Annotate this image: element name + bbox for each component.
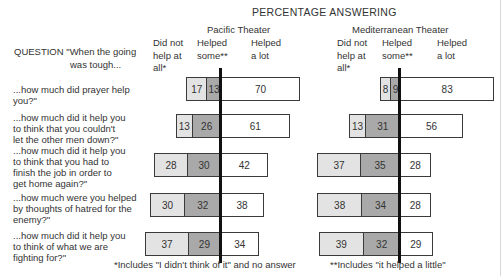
bar-mediterranean-q4: 383428 xyxy=(317,193,431,217)
segment-helped-a-lot: 28 xyxy=(399,194,430,216)
segment-helped-some: 35 xyxy=(360,154,399,176)
segment-did-not-help: 37 xyxy=(318,154,359,176)
segment-helped-some: 26 xyxy=(192,115,221,137)
segment-helped-a-lot: 38 xyxy=(220,194,263,216)
segment-helped-some: 30 xyxy=(187,154,221,176)
segment-helped-some: 31 xyxy=(365,115,400,137)
legend-helped-some-mediterranean: Helpedsome** xyxy=(382,37,413,62)
question-label-2: ...how much did it help youto think that… xyxy=(13,112,143,145)
bar-mediterranean-q3: 373528 xyxy=(317,153,431,177)
bar-pacific-q4: 303238 xyxy=(150,193,264,217)
panel-title-mediterranean: Mediterranean Theater xyxy=(352,24,448,35)
segment-did-not-help: 17 xyxy=(187,78,206,100)
legend-did-not-help-mediterranean: Did nothelp atall* xyxy=(337,37,367,75)
question-header: QUESTION "When the going was tough... xyxy=(14,46,136,71)
segment-did-not-help: 13 xyxy=(177,115,192,137)
legend-helped-a-lot-pacific: Helpeda lot xyxy=(251,37,281,62)
segment-helped-a-lot: 29 xyxy=(399,233,431,255)
segment-did-not-help: 39 xyxy=(320,233,364,255)
segment-did-not-help: 37 xyxy=(146,233,187,255)
legend-helped-some-pacific: Helpedsome** xyxy=(197,37,228,62)
segment-helped-a-lot: 42 xyxy=(220,154,267,176)
footnote-helped-some: **Includes "it helped a little" xyxy=(330,259,446,270)
question-label-3: ...how much did it help youto think that… xyxy=(13,145,143,189)
bar-pacific-q5: 372934 xyxy=(145,232,259,256)
segment-helped-some: 34 xyxy=(361,194,399,216)
page-edge-divider xyxy=(500,0,501,276)
segment-helped-a-lot: 70 xyxy=(221,78,299,100)
chart-title: PERCENTAGE ANSWERING xyxy=(252,6,397,18)
panel-title-pacific: Pacific Theater xyxy=(207,24,270,35)
bar-pacific-q2: 132661 xyxy=(176,114,290,138)
segment-helped-some: 29 xyxy=(188,233,220,255)
bar-pacific-q1: 171370 xyxy=(186,77,300,101)
segment-helped-some: 32 xyxy=(363,233,399,255)
pacific-center-line xyxy=(219,68,222,263)
segment-helped-some: 32 xyxy=(184,194,220,216)
bar-pacific-q3: 283042 xyxy=(154,153,268,177)
question-label-4: ...how much were you helpedby thoughts o… xyxy=(13,192,143,225)
segment-helped-a-lot: 61 xyxy=(221,115,289,137)
question-label-1: ...how much did prayer help you?" xyxy=(13,84,143,106)
segment-did-not-help: 28 xyxy=(155,154,186,176)
bar-mediterranean-q5: 393229 xyxy=(319,232,433,256)
segment-helped-a-lot: 83 xyxy=(400,78,493,100)
segment-helped-a-lot: 28 xyxy=(399,154,430,176)
segment-helped-a-lot: 56 xyxy=(400,115,463,137)
legend-helped-a-lot-mediterranean: Helpeda lot xyxy=(437,37,467,62)
segment-did-not-help: 8 xyxy=(381,78,390,100)
legend-did-not-help-pacific: Did nothelp atall* xyxy=(153,37,183,75)
mediterranean-center-line xyxy=(398,68,401,263)
segment-did-not-help: 13 xyxy=(350,115,365,137)
bar-mediterranean-q2: 133156 xyxy=(349,114,463,138)
footnote-did-not-help: *Includes "I didn't think of it" and no … xyxy=(114,259,296,270)
segment-did-not-help: 38 xyxy=(318,194,361,216)
segment-helped-a-lot: 34 xyxy=(220,233,258,255)
segment-did-not-help: 30 xyxy=(151,194,185,216)
